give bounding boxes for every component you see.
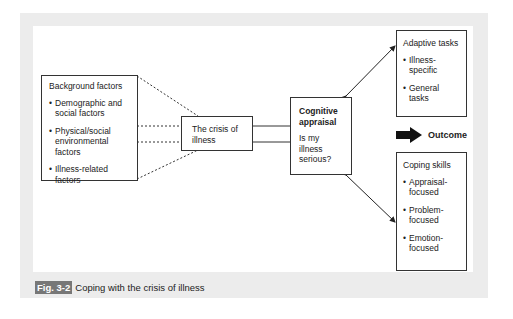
- adaptive-tasks-title: Adaptive tasks: [403, 38, 460, 49]
- background-factor-item: Illness-related factors: [49, 164, 130, 185]
- coping-skill-item: Appraisal-focused: [403, 177, 460, 198]
- adaptive-task-item: General tasks: [403, 83, 460, 104]
- adaptive-task-item: Illness-specific: [403, 55, 460, 76]
- cognitive-appraisal-question: Is my illness serious?: [299, 133, 331, 164]
- figure-caption: Fig. 3-2Coping with the crisis of illnes…: [35, 282, 205, 293]
- coping-skills-title: Coping skills: [403, 160, 460, 171]
- cognitive-appraisal-box: Cognitive appraisal Is my illness seriou…: [290, 97, 352, 175]
- outcome-label: Outcome: [428, 130, 467, 140]
- cognitive-appraisal-title: Cognitive appraisal: [299, 106, 343, 127]
- background-factors-title: Background factors: [49, 81, 130, 92]
- coping-skill-item: Problem-focused: [403, 205, 460, 226]
- background-factor-item: Physical/social environmental factors: [49, 126, 130, 158]
- figure-caption-text: Coping with the crisis of illness: [75, 282, 204, 293]
- adaptive-tasks-box: Adaptive tasks Illness-specific General …: [396, 30, 467, 117]
- background-factors-box: Background factors Demographic and socia…: [41, 75, 138, 181]
- coping-skill-item: Emotion-focused: [403, 233, 460, 254]
- coping-skills-box: Coping skills Appraisal-focused Problem-…: [396, 152, 467, 271]
- crisis-label: The crisis of illness: [192, 124, 238, 145]
- background-factor-item: Demographic and social factors: [49, 98, 130, 119]
- outcome-arrow-icon: [396, 127, 422, 143]
- crisis-box: The crisis of illness: [181, 116, 253, 151]
- figure-number-tag: Fig. 3-2: [35, 281, 72, 294]
